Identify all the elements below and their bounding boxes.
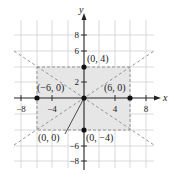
- y-tick-label: 2: [75, 77, 80, 87]
- point-label: (0, −4): [86, 132, 113, 144]
- point-0-0: [81, 95, 86, 100]
- hyperbola-diagram: x y −8 −4 4 8 8 6 2 −6 −8 (0, 4) (−6, 0)…: [0, 0, 174, 177]
- x-tick-label: 8: [144, 104, 149, 114]
- point-0-4: [81, 64, 86, 69]
- point-6-0: [127, 95, 132, 100]
- x-axis-arrow-icon: [154, 96, 161, 101]
- x-tick-label: 4: [113, 104, 118, 114]
- x-tick-label: −8: [16, 104, 26, 114]
- y-tick-label: −8: [69, 156, 79, 166]
- point-label: (0, 4): [87, 53, 109, 65]
- point-label: (6, 0): [104, 82, 126, 94]
- y-tick-label: 6: [75, 46, 80, 56]
- y-tick-label: 8: [75, 30, 80, 40]
- x-tick-label: −4: [47, 104, 57, 114]
- point-label: (−6, 0): [37, 82, 64, 94]
- x-axis-label: x: [162, 92, 168, 103]
- point-label: (0, 0): [38, 132, 60, 144]
- y-axis-label: y: [78, 4, 84, 15]
- y-tick-label: −6: [69, 141, 79, 151]
- point-neg6-0: [34, 95, 39, 100]
